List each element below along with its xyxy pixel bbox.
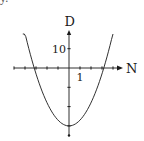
- x-axis-label: N: [126, 61, 137, 76]
- y-axis-label: D: [65, 14, 75, 29]
- y-axis-arrowhead: [67, 30, 71, 35]
- parabola-curve: [23, 34, 113, 126]
- parabola-chart: D N 10 1: [0, 0, 144, 141]
- y-axis-bottom-end: [68, 134, 70, 136]
- y-tick-label-10: 10: [52, 43, 66, 56]
- x-axis-arrowhead: [117, 66, 123, 71]
- x-tick-label-1: 1: [77, 71, 84, 84]
